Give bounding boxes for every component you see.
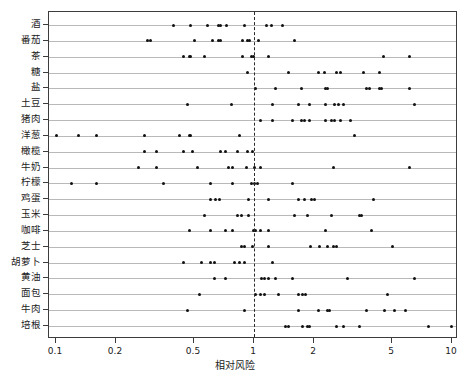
data-point: [306, 214, 309, 217]
data-point: [332, 166, 335, 169]
y-axis-label-9: 牛奶: [21, 162, 41, 172]
data-point: [155, 166, 158, 169]
data-point: [326, 87, 329, 90]
data-point: [297, 309, 300, 312]
data-point: [287, 71, 290, 74]
data-point: [333, 103, 336, 106]
data-point: [297, 103, 300, 106]
data-point: [213, 261, 216, 264]
y-axis-tick: [43, 182, 48, 183]
data-point: [368, 87, 371, 90]
row-gridline: [49, 88, 456, 89]
y-axis-label-3: 糖: [31, 67, 41, 77]
data-point: [342, 103, 345, 106]
data-point: [214, 198, 217, 201]
data-point: [330, 214, 333, 217]
data-point: [291, 277, 294, 280]
y-axis-label-18: 牛肉: [21, 304, 41, 314]
y-axis-tick: [43, 151, 48, 152]
row-gridline: [49, 104, 456, 105]
data-point: [335, 325, 338, 328]
data-point: [240, 214, 243, 217]
data-point: [308, 325, 311, 328]
row-gridline: [49, 294, 456, 295]
data-point: [380, 87, 383, 90]
data-point: [209, 198, 212, 201]
row-gridline: [49, 326, 456, 327]
row-gridline: [49, 199, 456, 200]
data-point: [95, 182, 98, 185]
y-axis-tick: [43, 135, 48, 136]
x-axis-ticklabel-4: 2: [310, 347, 316, 356]
y-axis-label-10: 柠檬: [21, 177, 41, 187]
y-axis-label-6: 猪肉: [21, 114, 41, 124]
x-axis-tick: [313, 338, 314, 343]
chart-canvas: 酒番茄茶糖盐土豆猪肉洋葱橄榄牛奶柠檬鸡蛋玉米咖啡芝士胡萝卜黄油面包牛肉培根 0.…: [0, 0, 470, 380]
data-point: [333, 119, 336, 122]
reference-line: [254, 12, 255, 337]
data-point: [200, 261, 203, 264]
y-axis-tick: [43, 277, 48, 278]
data-point: [230, 103, 233, 106]
y-axis-label-12: 玉米: [21, 209, 41, 219]
data-point: [259, 293, 262, 296]
y-axis-tick: [43, 198, 48, 199]
data-point: [303, 198, 306, 201]
row-gridline: [49, 25, 456, 26]
data-point: [342, 325, 345, 328]
data-point: [393, 309, 396, 312]
data-point: [189, 24, 192, 27]
y-axis-tick: [43, 56, 48, 57]
data-point: [324, 103, 327, 106]
y-axis-tick: [43, 167, 48, 168]
row-gridline: [49, 278, 456, 279]
data-point: [408, 87, 411, 90]
y-axis-label-15: 胡萝卜: [11, 257, 41, 267]
y-axis-tick: [43, 87, 48, 88]
y-axis-label-8: 橄榄: [21, 146, 41, 156]
data-point: [318, 245, 321, 248]
row-gridline: [49, 120, 456, 121]
data-point: [300, 87, 303, 90]
data-point: [291, 182, 294, 185]
data-point: [203, 55, 206, 58]
data-point: [383, 309, 386, 312]
y-axis-label-11: 鸡蛋: [21, 193, 41, 203]
data-point: [372, 198, 375, 201]
data-point: [162, 182, 165, 185]
data-point: [346, 277, 349, 280]
y-axis-tick: [43, 262, 48, 263]
y-axis-label-4: 盐: [31, 82, 41, 92]
x-axis-ticklabel-3: 1: [250, 347, 256, 356]
row-gridline: [49, 136, 456, 137]
row-gridline: [49, 41, 456, 42]
x-axis-ticklabel-2: 0.5: [186, 347, 200, 356]
data-point: [303, 119, 306, 122]
plot-area: [48, 11, 457, 338]
row-gridline: [49, 215, 456, 216]
x-axis-tick: [253, 338, 254, 343]
y-axis-tick: [43, 230, 48, 231]
row-gridline: [49, 263, 456, 264]
data-point: [404, 309, 407, 312]
data-point: [227, 166, 230, 169]
data-point: [155, 150, 158, 153]
data-point: [337, 103, 340, 106]
data-point: [209, 182, 212, 185]
data-point: [301, 325, 304, 328]
data-point: [271, 103, 274, 106]
data-point: [241, 55, 244, 58]
data-point: [247, 214, 250, 217]
x-axis-ticklabel-1: 0.2: [108, 347, 122, 356]
y-axis-tick: [43, 293, 48, 294]
data-point: [323, 71, 326, 74]
data-point: [297, 293, 300, 296]
data-point: [256, 182, 259, 185]
y-axis-label-16: 黄油: [21, 272, 41, 282]
data-point: [287, 325, 290, 328]
data-point: [291, 119, 294, 122]
data-point: [270, 24, 273, 27]
x-axis-tick: [391, 338, 392, 343]
data-point: [241, 39, 244, 42]
data-point: [413, 103, 416, 106]
